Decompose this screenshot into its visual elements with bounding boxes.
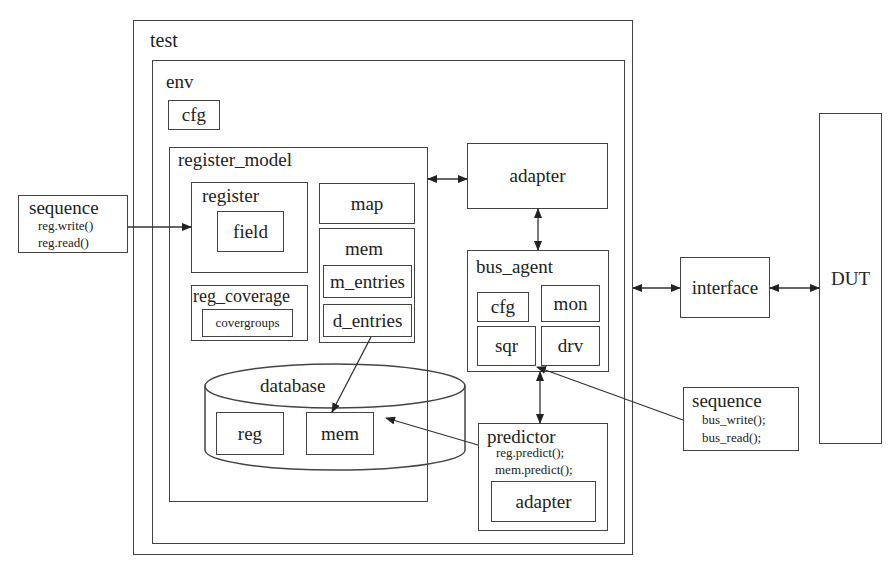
- mon-box: mon: [541, 285, 600, 322]
- env-cfg-label: cfg: [182, 104, 206, 126]
- m-entries-label: m_entries: [330, 271, 405, 293]
- register-label: register: [202, 186, 259, 205]
- covergroups-box: covergroups: [202, 309, 293, 337]
- predictor-line2: mem.predict();: [495, 463, 573, 476]
- dut-label: DUT: [831, 268, 870, 290]
- mon-label: mon: [554, 293, 588, 315]
- adapter-box: adapter: [467, 143, 608, 209]
- sequence-left-label: sequence: [29, 198, 99, 217]
- sequence-right-line1: bus_write();: [702, 413, 766, 426]
- map-label: map: [351, 193, 384, 215]
- sequence-left-line1: reg.write(): [38, 219, 93, 232]
- covergroups-label: covergroups: [215, 315, 279, 331]
- adapter-label: adapter: [510, 165, 566, 187]
- reg-coverage-label: reg_coverage: [193, 287, 290, 305]
- sequence-left-line2: reg.read(): [38, 236, 89, 249]
- drv-box: drv: [541, 326, 600, 366]
- sequence-right-line2: bus_read();: [702, 431, 761, 444]
- predictor-label: predictor: [487, 427, 556, 446]
- mem-label: mem: [345, 239, 383, 258]
- dut-box: DUT: [819, 113, 882, 444]
- bus-agent-cfg-box: cfg: [477, 292, 529, 322]
- test-label: test: [150, 30, 178, 50]
- field-label: field: [233, 221, 268, 243]
- env-label: env: [166, 72, 193, 91]
- interface-label: interface: [692, 277, 758, 299]
- sqr-box: sqr: [477, 326, 536, 366]
- database-reg-label: reg: [238, 423, 262, 445]
- m-entries-box: m_entries: [323, 265, 412, 298]
- predictor-adapter-label: adapter: [516, 491, 572, 513]
- predictor-line1: reg.predict();: [496, 446, 564, 459]
- bus-agent-label: bus_agent: [476, 257, 553, 276]
- database-mem-box: mem: [306, 412, 374, 455]
- d-entries-label: d_entries: [333, 310, 403, 332]
- env-cfg-box: cfg: [168, 100, 220, 130]
- sequence-right-label: sequence: [692, 391, 762, 410]
- field-box: field: [217, 211, 284, 252]
- register-model-label: register_model: [178, 150, 292, 169]
- d-entries-box: d_entries: [323, 304, 412, 337]
- database-label: database: [260, 376, 325, 395]
- database-reg-box: reg: [216, 412, 284, 455]
- sqr-label: sqr: [495, 335, 518, 357]
- database-mem-label: mem: [321, 423, 359, 445]
- drv-label: drv: [558, 335, 583, 357]
- interface-box: interface: [680, 257, 770, 318]
- bus-agent-cfg-label: cfg: [491, 296, 515, 318]
- predictor-adapter-box: adapter: [491, 481, 596, 522]
- map-box: map: [319, 183, 415, 224]
